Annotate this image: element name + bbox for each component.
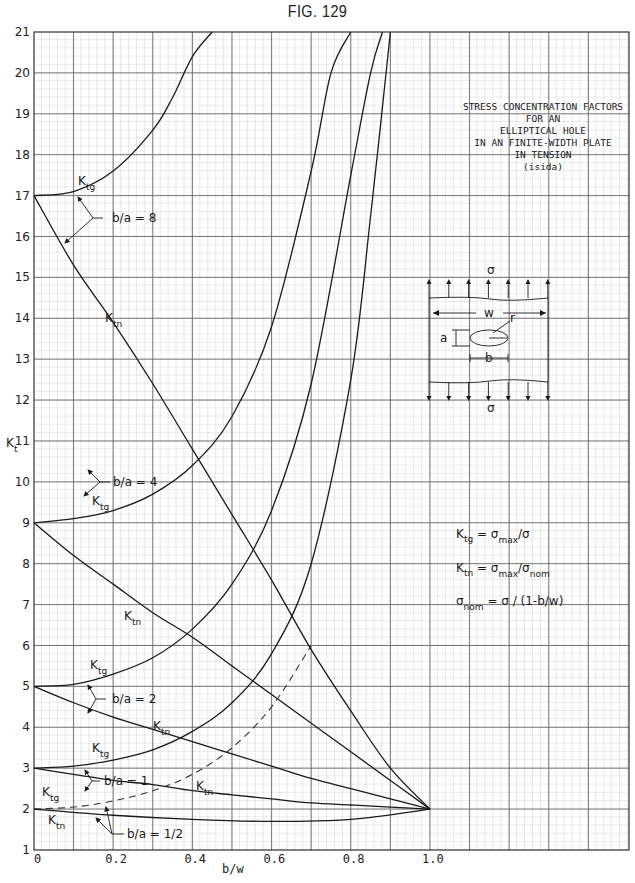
- r-label: r: [510, 311, 515, 325]
- y-tick: 14: [15, 311, 30, 325]
- svg-text:IN AN FINITE-WIDTH PLATE: IN AN FINITE-WIDTH PLATE: [474, 137, 612, 148]
- y-tick: 10: [15, 475, 30, 489]
- y-tick: 4: [22, 720, 30, 734]
- x-tick: 0: [34, 852, 41, 866]
- x-axis-label: b/w: [222, 862, 244, 876]
- chart: 123456789101112131415161718192021 00.20.…: [0, 0, 635, 883]
- y-tick: 21: [15, 25, 30, 39]
- y-tick: 7: [22, 598, 30, 612]
- y-tick: 5: [22, 679, 30, 693]
- y-tick: 16: [15, 230, 30, 244]
- sigma-bottom-label: σ: [487, 401, 495, 415]
- y-tick: 20: [15, 66, 30, 80]
- ba1-label: b/a = 1: [104, 774, 148, 788]
- x-tick: 0.2: [105, 852, 127, 866]
- ba4-label: b/a = 4: [113, 475, 157, 489]
- y-tick: 17: [15, 189, 30, 203]
- x-tick: 0.4: [184, 852, 206, 866]
- y-tick: 3: [22, 761, 30, 775]
- y-tick: 8: [22, 557, 30, 571]
- y-tick: 9: [22, 516, 30, 530]
- y-tick: 1: [22, 843, 30, 857]
- svg-text:STRESS CONCENTRATION FACTORS: STRESS CONCENTRATION FACTORS: [463, 101, 623, 112]
- y-tick: 6: [22, 639, 30, 653]
- ba8-label: b/a = 8: [112, 211, 156, 225]
- x-tick: 0.8: [343, 852, 365, 866]
- svg-text:ELLIPTICAL HOLE: ELLIPTICAL HOLE: [500, 125, 586, 136]
- y-tick: 13: [15, 352, 30, 366]
- y-tick: 15: [15, 270, 30, 284]
- svg-text:IN TENSION: IN TENSION: [514, 149, 571, 160]
- w-label: w: [484, 306, 494, 320]
- y-axis-ticks: 123456789101112131415161718192021: [15, 25, 30, 857]
- ba-half-label: b/a = 1/2: [127, 827, 183, 841]
- ba2-label: b/a = 2: [112, 692, 156, 706]
- y-tick: 2: [22, 802, 30, 816]
- y-tick: 18: [15, 148, 30, 162]
- y-tick: 19: [15, 107, 30, 121]
- y-tick: 12: [15, 393, 30, 407]
- svg-text:FOR AN: FOR AN: [526, 113, 561, 124]
- x-tick: 1.0: [422, 852, 444, 866]
- b-label: b: [485, 351, 493, 365]
- a-label: a: [440, 331, 447, 345]
- sigma-top-label: σ: [487, 263, 495, 277]
- svg-text:(isida): (isida): [523, 161, 563, 172]
- x-tick: 0.6: [264, 852, 286, 866]
